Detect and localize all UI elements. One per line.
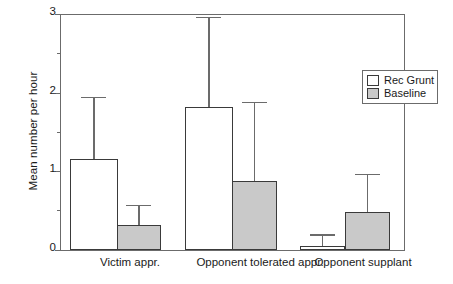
axis-line-left (60, 14, 61, 251)
y-tick-mark-minor-2_5 (57, 53, 61, 54)
y-tick-label-0: 0 (50, 242, 56, 254)
error-bar-stem-victim-appr-rec-grunt (93, 98, 94, 159)
legend-label-rec-grunt: Rec Grunt (384, 75, 434, 86)
legend-swatch-baseline (367, 88, 379, 99)
bar-opponent-tolerated-appr-baseline (232, 181, 277, 250)
bar-opponent-tolerated-appr-rec-grunt (185, 107, 233, 250)
y-tick-label-3: 3 (50, 6, 56, 18)
legend-item-rec-grunt: Rec Grunt (367, 74, 433, 87)
y-tick-mark-minor-0_5 (57, 210, 61, 211)
y-axis-title: Mean number per hour (27, 36, 39, 226)
x-axis-label-opponent-supplant: Opponent supplant (298, 256, 428, 268)
legend: Rec Grunt Baseline (362, 70, 438, 104)
bar-chart-figure: Mean number per hour 0 1 2 3 (0, 0, 453, 284)
axis-line-top (60, 14, 405, 15)
bar-opponent-supplant-baseline (345, 212, 390, 250)
error-bar-stem-victim-appr-baseline (138, 206, 139, 225)
legend-item-baseline: Baseline (367, 87, 433, 100)
error-bar-cap-opponent-supplant-rec-grunt (310, 234, 335, 235)
error-bar-cap-opponent-supplant-baseline (355, 174, 380, 175)
x-axis-label-victim-appr: Victim appr. (75, 256, 185, 268)
y-tick-label-2: 2 (50, 85, 56, 97)
plot-area: 0 1 2 3 (60, 14, 405, 251)
error-bar-cap-opponent-tolerated-appr-rec-grunt (196, 17, 221, 18)
axis-line-bottom (60, 250, 405, 251)
error-bar-stem-opponent-supplant-rec-grunt (322, 236, 323, 246)
error-bar-cap-victim-appr-baseline (126, 205, 151, 206)
axis-line-right (404, 14, 405, 251)
y-tick-mark-minor-1_5 (57, 132, 61, 133)
bar-victim-appr-rec-grunt (70, 159, 118, 249)
y-tick-label-1: 1 (50, 163, 56, 175)
legend-swatch-rec-grunt (367, 75, 379, 86)
bar-opponent-supplant-rec-grunt (300, 246, 345, 250)
error-bar-stem-opponent-supplant-baseline (367, 175, 368, 212)
error-bar-cap-opponent-tolerated-appr-baseline (242, 102, 267, 103)
bar-victim-appr-baseline (117, 225, 161, 250)
error-bar-stem-opponent-tolerated-appr-baseline (254, 103, 255, 180)
legend-label-baseline: Baseline (384, 88, 426, 99)
error-bar-stem-opponent-tolerated-appr-rec-grunt (208, 18, 209, 106)
error-bar-cap-victim-appr-rec-grunt (81, 97, 106, 98)
